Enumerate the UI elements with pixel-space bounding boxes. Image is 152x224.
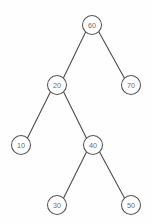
nodes-group: 60207010403050 (12, 16, 141, 215)
node-label: 20 (53, 81, 61, 90)
node-label: 30 (53, 201, 61, 210)
node-label: 70 (127, 81, 135, 90)
binary-search-tree-diagram: 60207010403050 (0, 0, 152, 224)
tree-edge (64, 152, 87, 199)
tree-edge (27, 92, 50, 139)
tree-node[interactable]: 50 (122, 196, 141, 215)
node-label: 10 (17, 141, 25, 150)
tree-diagram-canvas: 60207010403050 (0, 0, 152, 224)
tree-node[interactable]: 10 (12, 136, 31, 155)
tree-node[interactable]: 60 (83, 16, 102, 35)
tree-edge (100, 152, 125, 199)
node-label: 60 (88, 21, 96, 30)
tree-node[interactable]: 70 (122, 76, 141, 95)
node-label: 40 (89, 141, 97, 150)
tree-edge (64, 92, 87, 139)
node-label: 50 (127, 201, 135, 210)
tree-node[interactable]: 20 (48, 76, 67, 95)
edges-group (27, 32, 124, 199)
tree-node[interactable]: 30 (48, 196, 67, 215)
tree-node[interactable]: 40 (84, 136, 103, 155)
tree-edge (63, 32, 85, 78)
tree-edge (99, 32, 125, 79)
